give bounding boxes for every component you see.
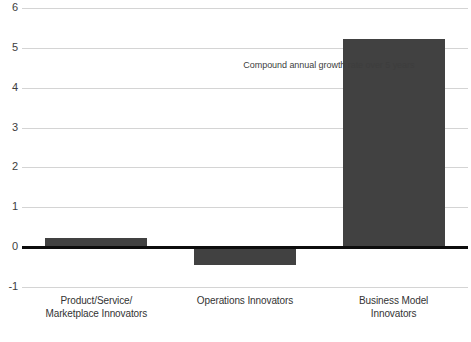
x-axis-category-label-line: Business Model: [319, 294, 468, 307]
y-axis-tick-label: 3: [0, 122, 18, 133]
y-axis-tick-label: 1: [0, 201, 18, 212]
y-axis-tick-label: 4: [0, 82, 18, 93]
bar-chart: Compound annual growth rate over 5 years…: [0, 0, 471, 342]
zero-axis-line: [22, 246, 468, 249]
x-axis-category-label: Business ModelInnovators: [319, 294, 468, 320]
chart-annotation: Compound annual growth rate over 5 years: [243, 60, 414, 71]
x-axis-category-label-line: Innovators: [319, 307, 468, 320]
y-axis-tick-label: 5: [0, 42, 18, 53]
x-axis-category-label-line: Product/Service/: [22, 294, 171, 307]
bar: [194, 247, 296, 265]
x-axis-category-label: Product/Service/Marketplace Innovators: [22, 294, 171, 320]
x-axis-category-label: Operations Innovators: [171, 294, 320, 307]
gridline--1: [22, 287, 468, 288]
y-axis-tick-label: 6: [0, 2, 18, 13]
x-axis-category-label-line: Marketplace Innovators: [22, 307, 171, 320]
x-axis-category-label-line: Operations Innovators: [171, 294, 320, 307]
y-axis-tick-label: 0: [0, 241, 18, 252]
gridline-6: [22, 8, 468, 9]
y-axis-tick-label: 2: [0, 161, 18, 172]
y-axis-tick-label: -1: [0, 281, 18, 292]
